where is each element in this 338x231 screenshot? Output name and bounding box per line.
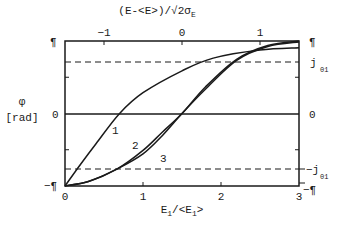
svg-text:0: 0 xyxy=(179,27,186,39)
top-axis-ticks: −101 xyxy=(97,27,263,39)
y-tick-left-minus-pi: −¶ xyxy=(44,180,57,192)
curve-label-1: 1 xyxy=(112,125,119,137)
y-tick-left-zero: 0 xyxy=(52,109,59,121)
y-axis-label-symbol: φ xyxy=(19,96,26,108)
svg-text:0: 0 xyxy=(62,191,69,203)
j01-lower-label: −j xyxy=(306,164,319,176)
j01-lower-subscript: 01 xyxy=(320,173,328,181)
y-tick-right-pi: ¶ xyxy=(309,36,316,48)
svg-text:−1: −1 xyxy=(97,27,111,39)
curve-label-3: 3 xyxy=(160,153,167,165)
chart-canvas: (E-<E>)/√2σE −101 1 2 3 ¶ 0 −¶ ¶ 0 −¶ j … xyxy=(0,0,338,231)
svg-text:1: 1 xyxy=(140,191,147,203)
curve-1 xyxy=(65,48,299,186)
x-axis-label: E1/<E1> xyxy=(161,204,204,218)
y-axis-label-unit: [rad] xyxy=(5,112,38,124)
y-tick-right-zero: 0 xyxy=(309,109,316,121)
y-tick-right-minus-pi: −¶ xyxy=(303,184,316,196)
j01-upper-label: j xyxy=(310,57,317,69)
svg-text:2: 2 xyxy=(218,191,225,203)
curve-label-2: 2 xyxy=(132,140,139,152)
bottom-axis-ticks: 0123 xyxy=(62,191,303,203)
j01-upper-subscript: 01 xyxy=(320,66,328,74)
svg-text:1: 1 xyxy=(257,27,264,39)
svg-text:3: 3 xyxy=(296,191,303,203)
top-axis-label: (E-<E>)/√2σE xyxy=(118,5,196,19)
y-tick-left-pi: ¶ xyxy=(50,36,57,48)
